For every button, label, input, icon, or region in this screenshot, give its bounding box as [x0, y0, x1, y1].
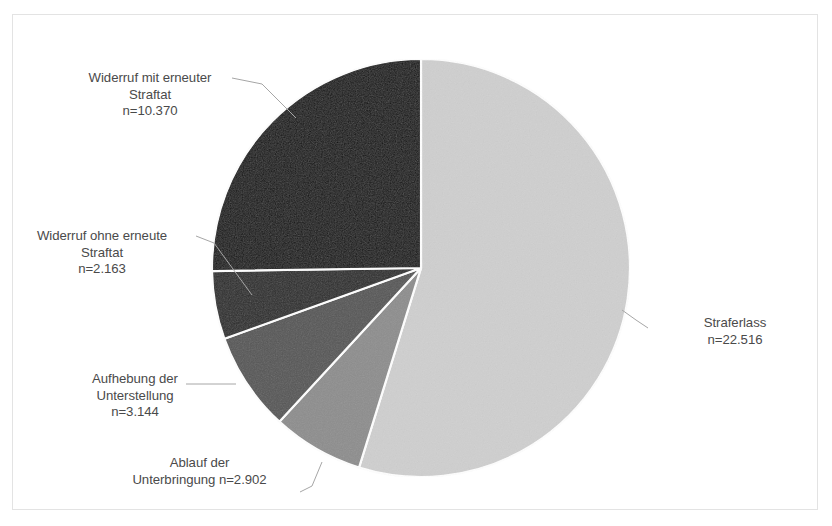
pie-label-value: n=3.144 — [45, 404, 225, 421]
pie-label-line: Aufhebung der — [45, 371, 225, 388]
pie-label-widerruf-mit-erneuter-straftat: Widerruf mit erneuter Straftat n=10.370 — [55, 70, 245, 120]
pie-label-value: n=10.370 — [55, 103, 245, 120]
pie-label-line: Straferlass — [650, 315, 820, 332]
pie-label-line: Straftat — [55, 87, 245, 104]
pie-label-line: Widerruf ohne erneute — [2, 228, 202, 245]
pie-label-widerruf-ohne-erneute-straftat: Widerruf ohne erneute Straftat n=2.163 — [2, 228, 202, 278]
pie-slices — [212, 59, 630, 477]
pie-label-straferlass: Straferlass n=22.516 — [650, 315, 820, 348]
pie-label-line: Unterstellung — [45, 388, 225, 405]
pie-label-ablauf-der-unterbringung: Ablauf der Unterbringung n=2.902 — [92, 455, 307, 488]
pie-label-line: Straftat — [2, 245, 202, 262]
pie-label-value: n=22.516 — [650, 332, 820, 349]
leader-line — [622, 310, 648, 328]
chart-page: Widerruf mit erneuter Straftat n=10.370 … — [0, 0, 832, 526]
pie-label-line: Ablauf der — [92, 455, 307, 472]
pie-label-value: n=2.163 — [2, 261, 202, 278]
pie-label-value: Unterbringung n=2.902 — [92, 472, 307, 489]
pie-label-line: Widerruf mit erneuter — [55, 70, 245, 87]
pie-label-aufhebung-der-unterstellung: Aufhebung der Unterstellung n=3.144 — [45, 371, 225, 421]
